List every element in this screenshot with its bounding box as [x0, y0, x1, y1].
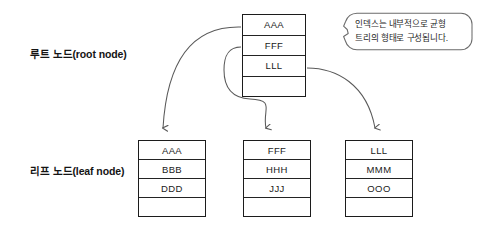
root-node: AAA FFF LLL: [242, 14, 306, 97]
leaf-node-1-cell-4: [139, 198, 205, 216]
connector-root-to-leaf-3: [307, 68, 375, 128]
leaf-node-label: 리프 노드(leaf node): [30, 163, 124, 178]
leaf-node-2-cell-4: [244, 198, 310, 216]
root-node-cell-2: FFF: [243, 36, 305, 57]
leaf-node-2-cell-1: FFF: [244, 141, 310, 160]
callout-text-line-1: 인덱스는 내부적으로 균형: [355, 18, 467, 32]
leaf-node-2-cell-3: JJJ: [244, 179, 310, 198]
leaf-node-3-cell-1: LLL: [346, 141, 412, 160]
leaf-node-1-cell-2: BBB: [139, 160, 205, 179]
leaf-node-1-cell-1: AAA: [139, 141, 205, 160]
root-node-cell-4: [243, 77, 305, 97]
leaf-node-2-cell-2: HHH: [244, 160, 310, 179]
root-node-cell-1: AAA: [243, 15, 305, 36]
leaf-node-2: FFF HHH JJJ: [243, 140, 311, 217]
callout-text: 인덱스는 내부적으로 균형 트리의 형태로 구성됩니다.: [355, 18, 467, 45]
leaf-node-1: AAA BBB DDD: [138, 140, 206, 217]
leaf-node-3-cell-4: [346, 198, 412, 216]
btree-index-diagram: 루트 노드(root node) 리프 노드(leaf node) AAA FF…: [0, 0, 480, 231]
leaf-node-3: LLL MMM OOO: [345, 140, 413, 217]
root-node-cell-3: LLL: [243, 56, 305, 77]
leaf-node-3-cell-3: OOO: [346, 179, 412, 198]
root-node-label: 루트 노드(root node): [30, 46, 127, 61]
callout-text-line-2: 트리의 형태로 구성됩니다.: [355, 32, 467, 46]
leaf-node-1-cell-3: DDD: [139, 179, 205, 198]
connector-root-to-leaf-1: [163, 27, 241, 128]
leaf-node-3-cell-2: MMM: [346, 160, 412, 179]
